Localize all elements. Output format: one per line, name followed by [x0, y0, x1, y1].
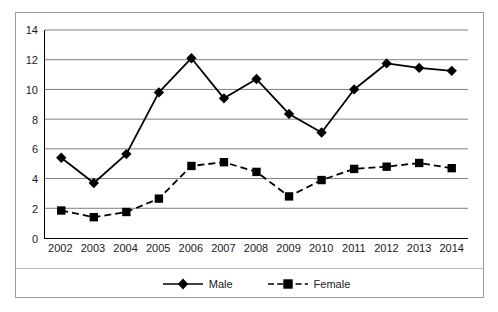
data-point-female: [187, 162, 195, 170]
y-axis-tick-label: 10: [26, 84, 38, 95]
data-point-female: [252, 168, 260, 176]
y-axis-tick-label: 14: [26, 25, 38, 36]
legend-label-female: Female: [314, 279, 351, 290]
legend-label-male: Male: [209, 279, 233, 290]
legend-marker-square-icon: [267, 277, 309, 291]
x-axis-tick-label: 2006: [179, 243, 203, 254]
x-axis-tick-label: 2007: [211, 243, 235, 254]
data-point-female: [448, 164, 456, 172]
series-layer: [45, 30, 468, 238]
data-point-female: [350, 165, 358, 173]
legend-marker-diamond-icon: [162, 277, 204, 291]
x-axis-tick-label: 2009: [276, 243, 300, 254]
data-point-female: [285, 192, 293, 200]
y-axis-tick-label: 6: [32, 144, 38, 155]
chart-container: 02468101214 2002200320042005200620072008…: [0, 0, 498, 312]
y-axis-tick-labels: 02468101214: [15, 30, 38, 239]
y-axis-tick-label: 12: [26, 54, 38, 65]
data-point-female: [415, 159, 423, 167]
y-axis-tick-label: 8: [32, 114, 38, 125]
legend-item-male: Male: [162, 277, 233, 291]
x-axis-tick-label: 2014: [439, 243, 463, 254]
x-axis-tick-label: 2005: [146, 243, 170, 254]
x-axis-tick-label: 2004: [113, 243, 137, 254]
y-axis-tick-label: 0: [32, 234, 38, 245]
y-axis-tick-label: 4: [32, 174, 38, 185]
data-point-female: [220, 158, 228, 166]
plot-area: [44, 30, 468, 239]
y-axis-tick-label: 2: [32, 204, 38, 215]
legend-item-female: Female: [267, 277, 351, 291]
x-axis-tick-label: 2010: [309, 243, 333, 254]
chart-legend: Male Female: [44, 273, 468, 295]
data-point-female: [90, 213, 98, 221]
x-axis-tick-label: 2011: [342, 243, 366, 254]
data-point-female: [317, 176, 325, 184]
x-axis-tick-label: 2008: [244, 243, 268, 254]
data-point-male: [447, 66, 457, 76]
x-axis-tick-label: 2003: [81, 243, 105, 254]
data-point-female: [382, 163, 390, 171]
x-axis-tick-label: 2002: [48, 243, 72, 254]
x-axis-tick-label: 2012: [374, 243, 398, 254]
x-axis-tick-labels: 2002200320042005200620072008200920102011…: [44, 243, 468, 259]
data-point-female: [122, 208, 130, 216]
data-point-female: [57, 206, 65, 214]
x-axis-tick-label: 2013: [407, 243, 431, 254]
legend-separator: [16, 268, 483, 269]
data-point-female: [155, 194, 163, 202]
data-point-male: [414, 63, 424, 73]
